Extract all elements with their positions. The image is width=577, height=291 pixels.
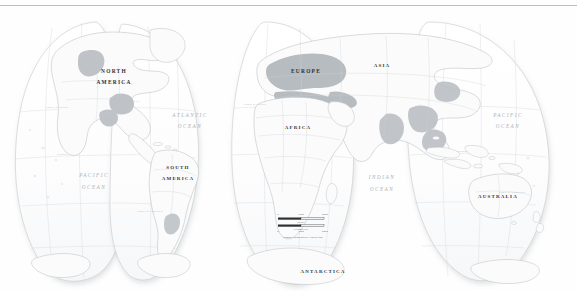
tropic-of-cancer-left-label: Tropic of Cancer [46,106,69,109]
pacific-ocean-left-line-2: OCEAN [82,184,107,190]
map-page: 0 1000 2000 Miles 0 1000 2000 Kilometers… [0,0,577,291]
atlantic-ocean-line-2: OCEAN [178,123,203,129]
atlantic-ocean-line-1: ATLANTIC [171,112,207,118]
tropic-of-capricorn-right-label: Tropic of Capricorn [499,191,526,194]
scale-bar-km-seg-2 [301,225,324,227]
equator-right-label: Equator [456,150,468,153]
projection-caption: Goode Homolosine Projection [283,236,323,239]
scale-bar-miles-seg-2 [301,218,324,220]
antarctica-outline-west [32,254,91,278]
greenland-outline [150,28,185,62]
australia-label: AUSTRALIA [478,194,518,199]
scale-bar-miles-seg-1 [278,218,301,220]
tropic-of-cancer-right-label: Tropic of Cancer [244,103,267,106]
scale-bar-km-seg-1 [278,225,301,227]
antarctica-label: ANTARCTICA [300,269,345,274]
north-america-line-1: NORTH [101,68,127,74]
world-map-canvas: 0 1000 2000 Miles 0 1000 2000 Kilometers… [0,8,577,291]
africa-label: AFRICA [285,125,311,130]
scale-miles-label: Miles [297,221,304,224]
europe-label: EUROPE [291,68,321,74]
pacific-ocean-right-line-2: OCEAN [496,123,521,129]
tropic-of-capricorn-left-label: Tropic of Capricorn [137,210,164,213]
scale-miles-tick-2: 2000 [322,213,329,216]
scale-miles-tick-1: 1000 [298,213,305,216]
scale-km-tick-2: 2000 [322,230,329,233]
south-america-line-2: AMERICA [162,176,195,181]
scale-km-label: Kilometers [294,228,308,231]
indian-ocean-line-1: INDIAN [368,174,395,180]
header-divider [0,5,577,6]
equator-left-label: Equator [56,153,68,156]
south-america-line-1: SOUTH [166,165,189,170]
pacific-ocean-left-line-1: PACIFIC [78,172,109,178]
asia-label: ASIA [374,63,391,68]
world-map-svg: 0 1000 2000 Miles 0 1000 2000 Kilometers… [0,8,577,291]
indian-ocean-label: INDIAN OCEAN [368,174,395,192]
tasmania-outline [512,222,517,225]
north-america-line-2: AMERICA [96,79,131,85]
pacific-ocean-right-line-1: PACIFIC [492,112,523,118]
indian-ocean-line-2: OCEAN [370,186,395,192]
